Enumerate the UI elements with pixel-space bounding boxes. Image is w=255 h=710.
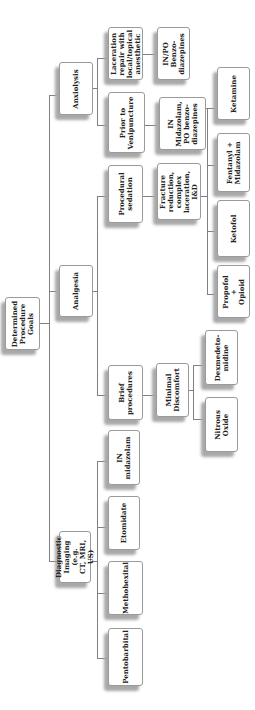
node-ketofol: Ketofol [217, 200, 250, 257]
node-label: Determined Procedure Goals [11, 300, 35, 346]
node-diagnostic-imaging: Diagnostic Imaging (e.g. CT, MRI, US) [59, 531, 91, 583]
connector-pentobarbital [97, 658, 108, 659]
connector-etomidate [97, 527, 108, 528]
node-methohexital: Methohexital [108, 561, 143, 615]
node-in-midazolam-po-benzo: IN Midazolam, PO benzo- diazepines [159, 97, 206, 150]
connector-in-midazolam [97, 461, 108, 462]
connector-anxiolysis-spine [97, 58, 98, 126]
node-label: Laceration repair with local/topical ane… [110, 29, 142, 77]
node-label: IN/PO Benzo- diazepines [162, 33, 186, 75]
node-pentobarbital: Pentobarbital [108, 628, 143, 686]
node-anxiolysis: Anxiolysis [59, 62, 93, 115]
node-analgesia: Analgesia [59, 265, 93, 317]
connector-agents-spine [207, 108, 208, 295]
node-label: Fracture reduction, complex laceration, … [159, 170, 199, 212]
node-label: Pentobarbital [122, 630, 130, 684]
connector-dexmed [193, 365, 205, 366]
connector-laceration-benzo [143, 54, 157, 55]
connector-procedural-fracture [143, 196, 157, 197]
node-label: Prior to Venipuncture [119, 96, 135, 149]
node-label: Diagnostic Imaging (e.g. CT, MRI, US) [55, 536, 95, 578]
connector-fentanyl [207, 165, 217, 166]
connector-ketamine [207, 108, 217, 109]
connector-main-spine [49, 95, 50, 562]
connector-diagnostic-spine [97, 461, 98, 659]
connector-venipuncture [97, 125, 108, 126]
node-label: IN midazolam [116, 436, 132, 479]
node-procedural-sedation: Procedural sedation [108, 165, 143, 223]
node-label: Brief procedures [118, 370, 134, 414]
node-label: Dexmedeto- midine [214, 334, 230, 381]
node-fentanyl-midazolam: Fentanyl + Midazolam [217, 133, 250, 192]
node-label: Anxiolysis [72, 69, 80, 108]
node-label: Etomidate [120, 503, 128, 543]
connector-procedural [97, 196, 108, 197]
node-label: Procedural sedation [118, 172, 134, 215]
connector-analgesia [49, 291, 59, 292]
node-label: Propofol + Opioid [222, 275, 246, 309]
connector-analgesia-spine [97, 196, 98, 396]
connector-methohexital [97, 593, 108, 594]
connector-nitrous [193, 419, 205, 420]
node-label: Analgesia [72, 272, 80, 310]
connector-anxiolysis [49, 95, 59, 96]
node-in-midazolam: IN midazolam [108, 430, 140, 485]
connector-venipuncture-midazolam [145, 125, 159, 126]
node-dexmedetomidine: Dexmedeto- midine [205, 330, 238, 385]
connector-minimal-spine [193, 365, 194, 420]
node-label: Ketamine [230, 75, 238, 113]
connector-brief-minimal [143, 395, 156, 396]
node-label: IN Midazolam, PO benzo- diazepines [167, 101, 199, 147]
node-in-po-benzodiazepines: IN/PO Benzo- diazepines [157, 27, 190, 80]
node-minimal-discomfort: Minimal Discomfort [156, 363, 189, 417]
node-laceration-repair: Laceration repair with local/topical ane… [108, 27, 143, 80]
node-label: Fentanyl + Midazolam [226, 141, 242, 184]
connector-brief [97, 395, 108, 396]
node-propofol-opioid: Propofol + Opioid [217, 265, 250, 318]
connector-propofol [207, 294, 217, 295]
node-ketamine: Ketamine [217, 67, 250, 120]
node-label: Nitrous Oxide [214, 410, 230, 440]
node-label: Methohexital [122, 562, 130, 614]
node-fracture-reduction: Fracture reduction, complex laceration, … [157, 163, 201, 220]
procedure-goals-diagram: Determined Procedure Goals Anxiolysis An… [0, 0, 255, 710]
node-prior-to-venipuncture: Prior to Venipuncture [108, 92, 145, 153]
node-label: Minimal Discomfort [165, 368, 181, 412]
connector-ketofol [207, 231, 217, 232]
node-etomidate: Etomidate [108, 496, 140, 550]
node-root: Determined Procedure Goals [5, 297, 40, 350]
node-label: Ketofol [230, 214, 238, 243]
node-brief-procedures: Brief procedures [108, 365, 143, 420]
connector-laceration [97, 58, 108, 59]
node-nitrous-oxide: Nitrous Oxide [205, 397, 238, 452]
